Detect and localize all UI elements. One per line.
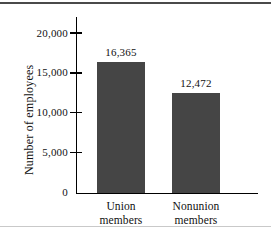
- y-axis-tick-label: 10,000: [4, 107, 68, 118]
- y-axis-title: Number of employees: [22, 65, 37, 175]
- y-axis-tick-label: 15,000: [4, 67, 68, 78]
- bar-value-label: 12,472: [156, 78, 236, 89]
- x-axis-category-label-line: members: [151, 213, 241, 227]
- bar: [172, 93, 220, 193]
- x-axis-category-label-line: Nonunion: [151, 199, 241, 213]
- y-axis-tick: [70, 152, 82, 153]
- y-axis-tick: [70, 112, 82, 113]
- y-axis-line: [76, 17, 77, 194]
- bar-chart-figure: Number of employees 05,00010,00015,00020…: [0, 0, 271, 235]
- y-axis-tick-label: 0: [4, 187, 68, 198]
- y-axis-tick-label: 20,000: [4, 28, 68, 39]
- top-divider-rule: [0, 2, 271, 4]
- y-axis-tick: [70, 32, 82, 33]
- bar-value-label: 16,365: [81, 47, 161, 58]
- y-axis-tick-label: 5,000: [4, 147, 68, 158]
- y-axis-tick: [70, 72, 82, 73]
- x-axis-line: [76, 193, 258, 194]
- x-axis-category-label: Nonunionmembers: [151, 199, 241, 227]
- bar: [97, 62, 145, 193]
